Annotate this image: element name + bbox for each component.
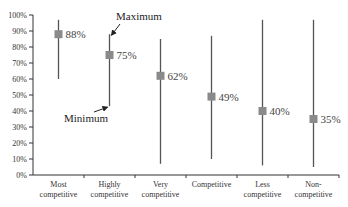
value-label: 62%: [168, 70, 188, 82]
value-label: 49%: [219, 91, 239, 103]
y-tick-label: 50%: [12, 91, 27, 100]
value-marker: [55, 30, 63, 38]
y-tick-label: 60%: [12, 75, 27, 84]
value-marker: [157, 72, 165, 80]
range-chart: 0%10%20%30%40%50%60%70%80%90%100%88%Most…: [0, 0, 348, 207]
y-tick-label: 0%: [16, 171, 27, 180]
annotation-minimum: Minimum: [64, 112, 108, 124]
x-category-label: competitive: [295, 190, 333, 199]
value-label: 75%: [117, 49, 137, 61]
y-tick-label: 70%: [12, 59, 27, 68]
x-category-label: Highly: [98, 180, 120, 189]
x-category-label: competitive: [244, 190, 282, 199]
x-category-label: Very: [153, 180, 168, 189]
x-category-label: competitive: [91, 190, 129, 199]
x-category-label: competitive: [142, 190, 180, 199]
chart-svg: 0%10%20%30%40%50%60%70%80%90%100%88%Most…: [0, 0, 348, 207]
y-tick-label: 40%: [12, 107, 27, 116]
value-marker: [208, 93, 216, 101]
value-label: 40%: [270, 105, 290, 117]
value-label: 88%: [66, 28, 86, 40]
value-marker: [106, 51, 114, 59]
value-marker: [259, 107, 267, 115]
y-tick-label: 20%: [12, 139, 27, 148]
x-category-label: Most: [50, 180, 67, 189]
x-category-label: Non-: [305, 180, 322, 189]
x-category-label: Less: [255, 180, 270, 189]
annotation-maximum: Maximum: [116, 10, 162, 22]
value-label: 35%: [321, 113, 341, 125]
arrow-maximum-icon: [112, 24, 121, 35]
y-tick-label: 80%: [12, 43, 27, 52]
x-category-label: Competitive: [192, 180, 232, 189]
y-tick-label: 90%: [12, 27, 27, 36]
y-tick-label: 100%: [8, 11, 27, 20]
y-tick-label: 10%: [12, 155, 27, 164]
value-marker: [310, 115, 318, 123]
y-tick-label: 30%: [12, 123, 27, 132]
x-category-label: competitive: [40, 190, 78, 199]
